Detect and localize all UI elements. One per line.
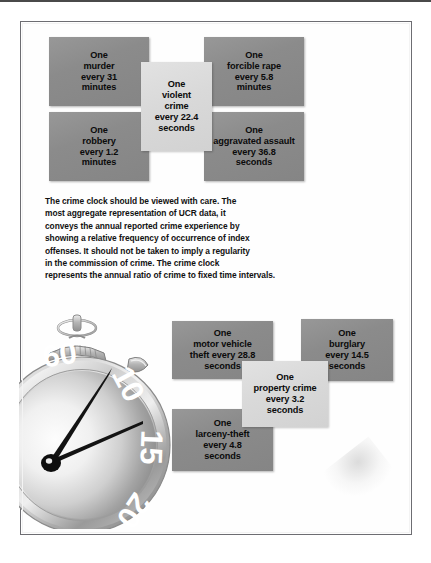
crime-box-violent-crime[interactable]: One violent crime every 22.4 seconds <box>141 62 212 151</box>
dial-numeral-15: 15 <box>133 430 169 466</box>
crime-clock-note: The crime clock should be viewed with ca… <box>45 195 345 282</box>
crime-clock-figure: One murder every 31 minutes One forcible… <box>0 0 431 563</box>
scan-top-rule <box>0 0 431 2</box>
crime-box-robbery[interactable]: One robbery every 1.2 minutes <box>49 112 149 181</box>
crime-box-property-crime[interactable]: One property crime every 3.2 seconds <box>242 361 328 427</box>
crime-box-aggravated-assault[interactable]: One aggravated assault every 36.8 second… <box>204 112 304 181</box>
crime-box-forcible-rape[interactable]: One forcible rape every 5.8 minutes <box>204 37 304 106</box>
stopwatch-bow-icon <box>58 315 96 338</box>
scan-smudge <box>321 436 397 509</box>
crime-box-murder[interactable]: One murder every 31 minutes <box>49 37 149 106</box>
page-frame: One murder every 31 minutes One forcible… <box>20 21 412 535</box>
dial-numeral-60: 60 <box>40 335 79 374</box>
